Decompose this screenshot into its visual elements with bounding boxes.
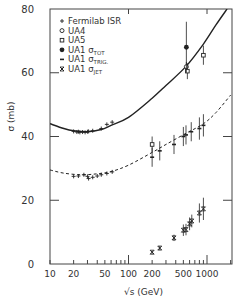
legend-item: UA1 σJET <box>60 64 103 76</box>
legend: Fermilab ISRUA4UA5UA1 σTOTUA1 σTRIG.UA1 … <box>60 16 122 76</box>
x-axis-label: √s (GeV) <box>124 287 163 297</box>
legend-label: UA1 σJET <box>68 64 103 76</box>
x-tick-label: 1000 <box>196 269 219 279</box>
y-axis-label: σ (mb) <box>6 101 16 131</box>
y-tick-label: 0 <box>28 259 34 270</box>
plot-svg: 0204060801020501002005001000√s (GeV)σ (m… <box>0 0 238 302</box>
x-tick-label: 100 <box>120 269 137 279</box>
series-fermilab-isr <box>72 120 115 180</box>
series-ua1-trig- <box>150 114 205 167</box>
x-tick-label: 50 <box>99 269 111 279</box>
legend-item: UA4 <box>60 26 85 36</box>
legend-label: UA4 <box>68 26 85 36</box>
x-tick-label: 500 <box>175 269 192 279</box>
legend-label: Fermilab ISR <box>68 16 121 26</box>
y-tick-label: 80 <box>21 4 34 15</box>
series-ua1-jet <box>150 198 205 255</box>
legend-item: Fermilab ISR <box>60 16 121 26</box>
legend-item: UA5 <box>60 35 85 45</box>
series-ua5 <box>150 46 205 153</box>
legend-label: UA5 <box>68 35 85 45</box>
x-tick-label: 20 <box>68 269 80 279</box>
cross-section-chart: 0204060801020501002005001000√s (GeV)σ (m… <box>0 0 238 302</box>
x-tick-label: 10 <box>44 269 56 279</box>
y-tick-label: 40 <box>21 131 34 142</box>
y-tick-label: 20 <box>21 195 34 206</box>
x-tick-label: 200 <box>144 269 161 279</box>
y-tick-label: 60 <box>21 67 34 78</box>
